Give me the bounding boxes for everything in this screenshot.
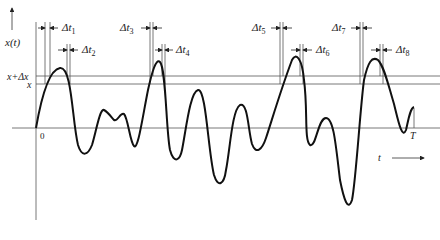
level-lower-label: x <box>27 80 31 90</box>
interval-label-6: Δt6 <box>316 44 330 58</box>
origin-label: 0 <box>40 132 45 141</box>
interval-label-2: Δt2 <box>82 44 96 58</box>
interval-label-4: Δt4 <box>176 44 190 58</box>
t-label: t <box>378 153 381 163</box>
interval-label-5: Δt5 <box>252 22 266 36</box>
signal-curve <box>36 57 414 205</box>
interval-label-1: Δt1 <box>62 22 76 36</box>
interval-label-7: Δt7 <box>332 22 346 36</box>
y-axis-label: x(t) <box>5 37 20 48</box>
end-label: T <box>410 131 416 141</box>
interval-label-8: Δt8 <box>396 44 410 58</box>
level-upper-label: x+Δx <box>7 72 29 82</box>
interval-label-3: Δt3 <box>120 22 134 36</box>
